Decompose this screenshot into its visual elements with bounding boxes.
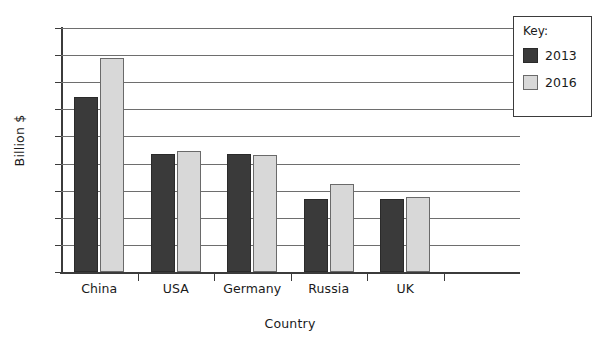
bar-group [138, 28, 215, 272]
bar [406, 197, 430, 272]
y-tick-mark [55, 55, 61, 56]
y-tick-mark [55, 136, 61, 137]
x-tick-label: China [81, 281, 117, 296]
bar [304, 199, 328, 272]
legend-swatch [523, 48, 538, 63]
bar [74, 97, 98, 272]
bar-chart: Billion $ 020406080100120140160180 China… [0, 0, 609, 348]
legend-label: 2013 [545, 48, 577, 63]
bar [330, 184, 354, 272]
x-tick-label: USA [163, 281, 189, 296]
legend-title: Key: [523, 24, 591, 38]
bar [227, 154, 251, 272]
bar [253, 155, 277, 272]
bar-group [61, 28, 138, 272]
bar [380, 199, 404, 272]
y-tick-mark [55, 245, 61, 246]
legend-label: 2016 [545, 75, 577, 90]
x-tick-mark [444, 272, 445, 281]
y-tick-mark [55, 191, 61, 192]
x-tick-label: Russia [308, 281, 349, 296]
bars-layer [61, 28, 520, 272]
bar-group [214, 28, 291, 272]
plot-area [61, 28, 520, 272]
x-axis-title: Country [60, 316, 520, 331]
legend-box: Key: 20132016 [513, 16, 592, 117]
legend-swatch [523, 75, 538, 90]
x-tick-mark [214, 272, 215, 281]
x-axis-ticks: ChinaUSAGermanyRussiaUK [61, 272, 521, 312]
y-tick-mark [55, 164, 61, 165]
y-axis-title: Billion $ [12, 81, 27, 201]
legend-entry: 2013 [523, 48, 591, 63]
y-tick-mark [55, 28, 61, 29]
x-tick-mark [138, 272, 139, 281]
bar-group [291, 28, 368, 272]
y-tick-mark [55, 109, 61, 110]
legend-entries: 20132016 [523, 48, 591, 90]
bar [177, 151, 201, 272]
bar [151, 154, 175, 272]
bar [100, 58, 124, 272]
bar-group [367, 28, 444, 272]
x-tick-label: Germany [223, 281, 281, 296]
x-tick-mark [367, 272, 368, 281]
y-tick-mark [55, 218, 61, 219]
x-tick-mark [291, 272, 292, 281]
y-tick-mark [55, 82, 61, 83]
x-tick-label: UK [396, 281, 414, 296]
legend-entry: 2016 [523, 75, 591, 90]
bar-group [444, 28, 521, 272]
